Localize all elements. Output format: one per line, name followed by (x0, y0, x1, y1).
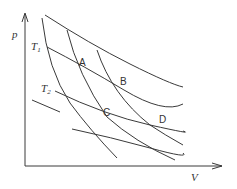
pv-diagram (0, 0, 237, 189)
point-d-label: D (159, 115, 166, 125)
point-b-label: B (120, 77, 127, 87)
isotherm-top (45, 15, 183, 87)
t1-label-sub: 1 (37, 46, 41, 54)
isotherm-bottom (72, 129, 184, 155)
point-c-label: C (103, 108, 110, 118)
isotherm-t2 (55, 91, 186, 132)
x-axis-label: V (191, 172, 198, 183)
point-a-label: A (79, 58, 86, 68)
t2-label: T2 (41, 83, 51, 96)
t1-label: T1 (31, 41, 41, 54)
t2-label-sub: 2 (47, 88, 51, 96)
lower-left-segment (32, 100, 60, 112)
y-axis-label: p (12, 29, 18, 40)
adiabat-right (97, 50, 183, 145)
axes (22, 13, 222, 169)
